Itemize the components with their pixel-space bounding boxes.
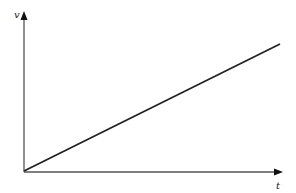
y-axis — [21, 11, 28, 172]
y-axis-label: v — [14, 9, 20, 20]
x-axis — [24, 169, 283, 176]
velocity-time-diagram: v t — [0, 0, 296, 193]
x-axis-arrow-icon — [274, 169, 283, 176]
x-axis-label: t — [276, 180, 281, 191]
y-axis-arrow-icon — [21, 11, 28, 20]
velocity-line — [24, 44, 280, 171]
